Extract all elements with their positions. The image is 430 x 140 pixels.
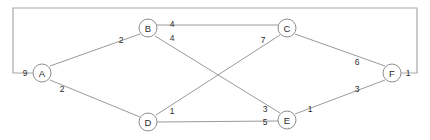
edge-weight-b-c: 4 bbox=[170, 19, 175, 29]
edge-weight-a-b: 2 bbox=[119, 35, 124, 45]
edge-a-b bbox=[50, 34, 140, 66]
node-f[interactable]: F bbox=[383, 64, 401, 82]
node-c[interactable]: C bbox=[278, 19, 296, 37]
edge-a-b-line bbox=[50, 34, 140, 66]
node-b[interactable]: B bbox=[139, 19, 157, 37]
node-e[interactable]: E bbox=[278, 111, 296, 129]
graph-figure: A B C D E F 2 2 9 4 4 3 7 1 6 5 bbox=[0, 0, 430, 140]
edge-c-f bbox=[295, 34, 385, 66]
edge-weight-a-d: 2 bbox=[60, 84, 65, 94]
edge-weight-c-d-near-d: 1 bbox=[170, 106, 175, 116]
edge-c-f-line bbox=[295, 34, 385, 66]
node-a[interactable]: A bbox=[33, 64, 51, 82]
node-b-label: B bbox=[145, 23, 151, 34]
edge-weight-c-f: 6 bbox=[355, 57, 360, 67]
graph-diagram-canvas: A B C D E F 2 2 9 4 4 3 7 1 6 5 bbox=[0, 0, 430, 140]
node-f-label: F bbox=[389, 68, 395, 79]
edge-weight-a-f-near-f: 1 bbox=[406, 68, 411, 78]
edge-weight-e-f-near-e: 1 bbox=[308, 104, 313, 114]
edge-weight-b-e-near-b: 4 bbox=[170, 33, 175, 43]
edge-weight-d-e: 5 bbox=[263, 117, 268, 127]
node-a-label: A bbox=[39, 68, 46, 79]
edge-d-e-line bbox=[157, 121, 278, 122]
node-e-label: E bbox=[284, 115, 290, 126]
edge-weight-b-e-near-e: 3 bbox=[263, 104, 268, 114]
edge-c-d bbox=[156, 35, 280, 115]
node-c-label: C bbox=[284, 23, 291, 34]
node-d-label: D bbox=[145, 117, 152, 128]
edge-c-d-line bbox=[156, 35, 280, 115]
edge-weight-c-d-near-c: 7 bbox=[261, 35, 266, 45]
edge-d-e bbox=[157, 121, 278, 122]
node-d[interactable]: D bbox=[139, 113, 157, 131]
edge-weight-a-f-near-a: 9 bbox=[23, 68, 28, 78]
edge-weight-e-f: 3 bbox=[355, 84, 360, 94]
